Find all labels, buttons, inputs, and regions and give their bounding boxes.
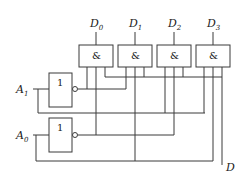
data-input-label-d: D: [225, 161, 235, 174]
output-label-d0: D0: [89, 17, 104, 32]
inverter-bubble: [73, 133, 78, 138]
inverter-bubble: [73, 87, 78, 92]
and-symbol: &: [209, 50, 218, 61]
output-label-d2: D2: [167, 17, 182, 32]
output-label-d3: D3: [206, 17, 221, 32]
and-gate-3: &: [196, 45, 230, 67]
and-gate-2: &: [157, 45, 191, 67]
a1-inverted-wires: [78, 67, 126, 89]
output-labels: D0 D1 D2 D3: [89, 17, 221, 32]
input-label-a0: A0: [15, 129, 29, 144]
input-label-a1: A1: [15, 83, 28, 98]
and-gate-0: &: [79, 45, 113, 67]
not-symbol: 1: [57, 77, 63, 88]
not-gate-a1: 1: [49, 73, 78, 107]
and-gate-1: &: [118, 45, 152, 67]
and-symbol: &: [170, 50, 179, 61]
and-symbol: &: [92, 50, 101, 61]
output-label-d1: D1: [128, 17, 142, 32]
output-wires: [96, 32, 213, 45]
not-gate-a0: 1: [49, 118, 78, 152]
and-symbol: &: [131, 50, 140, 61]
not-symbol: 1: [57, 122, 63, 133]
logic-circuit-diagram: D0 D1 D2 D3 & & & & 1: [0, 0, 241, 177]
